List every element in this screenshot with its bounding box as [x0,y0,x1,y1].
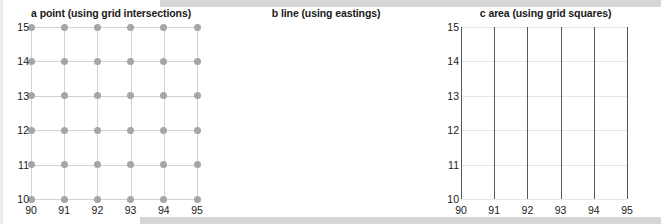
grid-point-95-14 [194,58,201,65]
x-tick-a-91: 91 [58,204,70,216]
x-tick-a-93: 93 [125,204,137,216]
gridline-vertical-91 [64,27,65,199]
grid-point-95-12 [194,127,201,134]
grid-point-95-11 [194,161,201,168]
grid-point-94-12 [160,127,167,134]
grid-point-91-12 [61,127,68,134]
panel-a-x-axis-labels: 909192939495 [31,204,197,218]
panel-b-letter: b [272,7,278,19]
grid-point-92-11 [94,161,101,168]
y-tick-a-12: 12 [17,124,29,136]
x-tick-a-95: 95 [191,204,203,216]
grid-point-93-11 [127,161,134,168]
gridline-vertical-92 [97,27,98,199]
grid-point-94-15 [160,24,167,31]
gridline-horizontal-14 [31,61,197,62]
panel-a-letter: a [31,7,37,19]
grid-point-94-11 [160,161,167,168]
gridline-vertical-90 [31,27,32,199]
grid-point-95-13 [194,92,201,99]
panel-b-line: bline (using eastings) 151413121110 9091… [215,0,437,224]
x-tick-a-94: 94 [158,204,170,216]
grid-point-92-14 [94,58,101,65]
gridline-horizontal-13 [31,96,197,97]
grid-point-93-12 [127,127,134,134]
panel-a-point: apoint (using grid intersections) 151413… [0,0,222,224]
figure-grid-referencing: apoint (using grid intersections) 151413… [0,0,661,224]
gridline-vertical-94 [164,27,165,199]
grid-point-91-13 [61,92,68,99]
grid-point-94-13 [160,92,167,99]
grid-point-91-11 [61,161,68,168]
panel-c-title: carea (using grid squares) [430,7,661,19]
panel-c-letter: c [480,7,486,19]
grid-point-93-10 [127,196,134,203]
y-tick-a-15: 15 [17,21,29,33]
panel-a-title-text: point (using grid intersections) [40,7,191,19]
panel-a-y-axis-labels: 151413121110 [3,27,29,199]
panel-a-title: apoint (using grid intersections) [0,7,222,19]
y-tick-a-13: 13 [17,90,29,102]
y-tick-a-14: 14 [17,55,29,67]
grid-point-91-15 [61,24,68,31]
gridline-horizontal-10 [31,199,197,200]
y-tick-a-11: 11 [18,159,29,171]
grid-point-93-15 [127,24,134,31]
gridline-vertical-95 [197,27,198,199]
panel-a-plot-area [31,27,197,199]
grid-point-91-10 [61,196,68,203]
gridline-horizontal-11 [31,165,197,166]
grid-point-93-14 [127,58,134,65]
panel-c-area: carea (using grid squares) 151413121110 … [430,0,661,224]
grid-point-92-10 [94,196,101,203]
grid-point-92-13 [94,92,101,99]
panel-b-title: bline (using eastings) [215,7,437,19]
panel-b-title-text: line (using eastings) [281,7,380,19]
panel-c-title-text: area (using grid squares) [488,7,611,19]
grid-point-91-14 [61,58,68,65]
gridline-vertical-93 [131,27,132,199]
x-tick-a-90: 90 [25,204,37,216]
gridline-horizontal-12 [31,130,197,131]
grid-point-92-12 [94,127,101,134]
grid-point-95-10 [194,196,201,203]
grid-point-95-15 [194,24,201,31]
grid-point-94-14 [160,58,167,65]
grid-point-94-10 [160,196,167,203]
x-tick-a-92: 92 [92,204,104,216]
grid-point-92-15 [94,24,101,31]
gridline-horizontal-15 [31,27,197,28]
grid-point-93-13 [127,92,134,99]
